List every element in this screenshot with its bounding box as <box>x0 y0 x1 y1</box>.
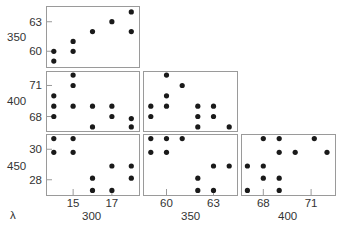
data-point <box>195 104 200 109</box>
data-point <box>227 163 232 168</box>
data-point <box>71 104 76 109</box>
data-point <box>109 104 114 109</box>
panel-400-vs-300 <box>47 72 140 132</box>
x-tick-label: 15 <box>67 197 80 209</box>
data-point <box>71 136 76 141</box>
panel-350-vs-300 <box>47 7 140 68</box>
y-tick-label: 68 <box>29 111 42 123</box>
data-point <box>195 176 200 181</box>
data-point <box>211 114 216 119</box>
y-tick-label: 71 <box>29 79 42 91</box>
data-point <box>164 93 169 98</box>
panel-450-vs-300 <box>47 135 140 196</box>
data-point <box>90 188 95 193</box>
y-tick-label: 28 <box>29 174 42 186</box>
data-point <box>211 188 216 193</box>
data-point <box>180 83 185 88</box>
data-point <box>261 176 266 181</box>
corner-label-lambda: λ <box>10 209 16 221</box>
panel-400-vs-350 <box>144 72 238 132</box>
panel-frames <box>47 7 336 196</box>
data-point <box>109 114 114 119</box>
data-point <box>277 136 282 141</box>
data-point <box>51 114 56 119</box>
row-label-350: 350 <box>7 31 26 43</box>
data-point <box>51 104 56 109</box>
data-point <box>164 104 169 109</box>
column-label-300: 300 <box>82 210 101 222</box>
data-point <box>129 176 134 181</box>
data-point <box>277 188 282 193</box>
data-point <box>71 83 76 88</box>
data-point <box>324 150 329 155</box>
data-point <box>129 29 134 34</box>
data-point <box>293 150 298 155</box>
column-label-400: 400 <box>278 210 297 222</box>
data-point <box>148 150 153 155</box>
data-point <box>211 104 216 109</box>
data-point <box>51 136 56 141</box>
data-point <box>71 150 76 155</box>
data-point <box>51 93 56 98</box>
panel-450-vs-400 <box>242 135 336 196</box>
x-tick-label: 71 <box>305 197 318 209</box>
data-point <box>90 104 95 109</box>
data-point <box>245 163 250 168</box>
data-point <box>71 39 76 44</box>
data-point <box>51 49 56 54</box>
data-point <box>195 124 200 129</box>
data-point <box>51 59 56 64</box>
x-tick-label: 60 <box>160 197 173 209</box>
y-tick-label: 60 <box>29 45 42 57</box>
data-point <box>164 150 169 155</box>
data-point <box>129 116 134 121</box>
data-point <box>148 104 153 109</box>
data-point <box>109 163 114 168</box>
data-point <box>245 188 250 193</box>
data-point <box>129 163 134 168</box>
panel-450-vs-350 <box>144 135 238 196</box>
data-point <box>90 176 95 181</box>
data-point <box>148 136 153 141</box>
data-point <box>109 188 114 193</box>
data-point <box>148 114 153 119</box>
data-point <box>51 150 56 155</box>
data-point <box>90 124 95 129</box>
data-point <box>277 176 282 181</box>
x-tick-label: 63 <box>207 197 220 209</box>
data-point <box>129 9 134 14</box>
x-tick-label: 68 <box>257 197 270 209</box>
data-point <box>211 163 216 168</box>
scatter-matrix-chart: 606368712830151760636871 λ 350 400 450 3… <box>0 0 340 228</box>
row-label-450: 450 <box>7 160 26 172</box>
y-tick-label: 63 <box>29 16 42 28</box>
column-label-350: 350 <box>181 210 200 222</box>
y-tick-label: 30 <box>29 143 42 155</box>
data-point <box>195 114 200 119</box>
data-point <box>180 136 185 141</box>
data-point <box>71 73 76 78</box>
data-point <box>164 136 169 141</box>
data-point <box>277 150 282 155</box>
data-point <box>164 73 169 78</box>
x-tick-label: 17 <box>105 197 118 209</box>
row-label-400: 400 <box>7 95 26 107</box>
data-point <box>195 188 200 193</box>
data-point <box>90 29 95 34</box>
data-point <box>71 49 76 54</box>
data-point <box>129 124 134 129</box>
data-point <box>261 136 266 141</box>
data-point <box>109 19 114 24</box>
data-point <box>227 124 232 129</box>
data-point <box>261 163 266 168</box>
data-point <box>312 136 317 141</box>
